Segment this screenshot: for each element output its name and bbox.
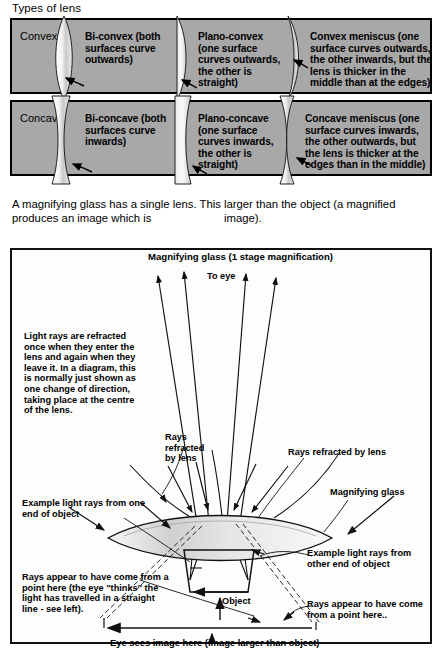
label-rays-refracted-by-lens-right: Rays refracted by lens xyxy=(288,447,428,458)
label-eye-sees-image: Eye sees image here (image larger than o… xyxy=(110,638,319,649)
pointer-arrow-plano-convex xyxy=(182,80,197,88)
leader-curve-mid-rays xyxy=(212,450,222,516)
row-label-concave: Concave xyxy=(20,112,63,125)
diagram-title: Magnifying glass (1 stage magnification) xyxy=(148,252,333,263)
label-to-eye: To eye xyxy=(207,271,235,282)
bi-concave-lens-icon xyxy=(52,96,70,184)
lens-cell-label-plano-convex: Plano-convex (one surface curves outward… xyxy=(198,31,282,89)
into-lens-arrow-2 xyxy=(196,462,208,510)
leader-curve-right-rays xyxy=(274,452,340,518)
magnifying-lens-shape xyxy=(108,516,332,561)
lens-cell-label-convex-meniscus: Convex meniscus (one surface curves outw… xyxy=(310,31,434,89)
pointer-arrow-convex-meniscus xyxy=(294,60,308,68)
intro-text-right: larger than the object (a magnified imag… xyxy=(224,198,432,225)
label-example-rays-one-end: Example light rays from one end of objec… xyxy=(22,498,152,519)
lens-cell-label-bi-concave: Bi-concave (both surfaces curve inwards) xyxy=(85,113,175,148)
example-right-arrow-into-lens xyxy=(348,496,394,534)
emergent-ray-1 xyxy=(158,276,197,523)
lens-cell-label-concave-meniscus: Concave meniscus (one surface curves inw… xyxy=(305,113,433,171)
label-object: Object xyxy=(222,596,251,607)
lens-table-row-concave: Concave Bi-concave (both surfaces curve … xyxy=(10,100,432,176)
intro-text-left: A magnifying glass has a single lens. Th… xyxy=(12,198,222,225)
label-rays-appear-right: Rays appear to have come from a point he… xyxy=(307,599,431,620)
leader-rays-refracted xyxy=(258,458,304,518)
label-example-rays-other-end: Example light rays from other end of obj… xyxy=(307,548,431,569)
lens-table-title: Types of lens xyxy=(12,2,81,15)
label-magnifying-glass: Magnifying glass xyxy=(330,487,430,498)
emergent-ray-2 xyxy=(184,272,209,523)
pointer-arrow-bi-convex xyxy=(66,78,84,86)
emergent-ray-3 xyxy=(227,274,246,522)
label-refraction-note: Light rays are refracted once when they … xyxy=(24,331,144,416)
lens-cell-label-bi-convex: Bi-convex (both surfaces curve outwards) xyxy=(85,31,173,66)
plano-concave-lens-icon xyxy=(175,96,191,184)
label-rays-refracted-by-lens-left: Rays refracted by lens xyxy=(165,432,213,464)
row-label-convex: Convex xyxy=(20,30,57,43)
leader-magnifying-glass xyxy=(324,500,348,532)
bi-convex-lens-icon xyxy=(56,16,73,100)
label-rays-appear-left: Rays appear to have come from a point he… xyxy=(22,572,170,614)
pointer-arrow-bi-concave xyxy=(73,164,92,172)
convex-meniscus-lens-icon xyxy=(288,16,299,100)
leader-arrow-appear-left xyxy=(248,618,260,622)
into-lens-arrow-1 xyxy=(168,466,192,512)
lens-table-row-convex: Convex Bi-convex (both surfaces curve ou… xyxy=(10,18,432,94)
into-lens-arrow-3 xyxy=(234,464,256,510)
plano-convex-lens-icon xyxy=(177,16,186,100)
into-lens-arrow-4 xyxy=(252,466,288,512)
leader-arrow-appear-right xyxy=(284,612,294,620)
lens-cell-label-plano-concave: Plano-concave (one surface curves inward… xyxy=(198,113,284,171)
